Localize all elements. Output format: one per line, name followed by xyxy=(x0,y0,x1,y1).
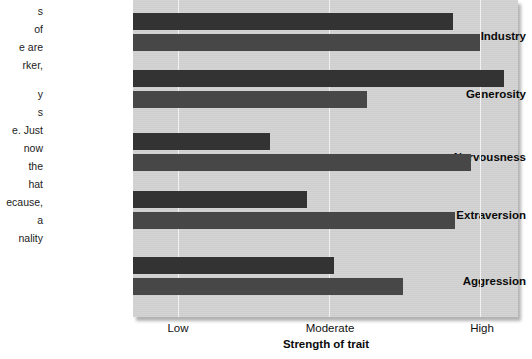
tick-label-moderate: Moderate xyxy=(306,322,355,334)
bar-industry-2 xyxy=(133,34,480,51)
bar-extraversion-2 xyxy=(133,212,455,229)
gridline-high xyxy=(480,0,481,317)
bar-nervousness-1 xyxy=(133,133,270,150)
axis-title: Strength of trait xyxy=(283,338,369,350)
bar-extraversion-1 xyxy=(133,191,307,208)
bar-aggression-1 xyxy=(133,257,334,274)
plot-area xyxy=(133,0,518,317)
tick-label-high: High xyxy=(470,322,494,334)
category-label-aggression: Aggression xyxy=(402,275,532,287)
category-label-generosity: Generosity xyxy=(402,88,532,100)
bar-industry-1 xyxy=(133,13,453,30)
bar-nervousness-2 xyxy=(133,154,471,171)
tick-label-low: Low xyxy=(167,322,188,334)
bar-generosity-1 xyxy=(133,70,504,87)
bar-aggression-2 xyxy=(133,278,403,295)
bar-generosity-2 xyxy=(133,91,367,108)
bar-chart: Industry Generosity Nervousness Extraver… xyxy=(0,0,532,359)
